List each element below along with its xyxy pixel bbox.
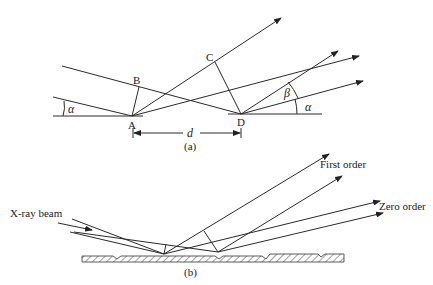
grating-surface [82,254,344,262]
incident-beam-upper-ext [74,232,218,252]
angle-arc-alpha-right [295,99,297,114]
diffracted-ray-d-alpha [241,81,363,114]
zero-order-ray-1 [164,201,380,254]
label-x-ray-beam: X-ray beam [10,207,63,219]
label-c: C [206,51,213,63]
label-alpha-left: α [68,102,75,116]
label-zero-order: Zero order [379,200,426,212]
diffracted-ray-d-beta [241,51,338,114]
label-b: B [133,74,140,86]
zero-order-ray-2 [218,213,383,252]
angle-arc-alpha-left [63,101,65,116]
figure-b: X-ray beam First order Zero order (b) [10,154,426,279]
label-d-distance: d [187,126,194,140]
figure-a: A B C D α α β d (a) [53,18,363,153]
incident-ray-upper [62,66,241,114]
label-first-order: First order [320,158,366,170]
diffracted-ray-a-steep [132,18,281,116]
diffraction-diagram: A B C D α α β d (a) X-ray beam Fir [0,0,433,285]
incident-beam-upper [72,219,164,254]
label-d: D [237,116,245,128]
caption-a: (a) [184,140,197,153]
label-a: A [128,119,136,131]
first-order-ray-1 [164,154,329,254]
label-alpha-right: α [305,100,312,114]
incident-direction-arrow [58,223,92,230]
caption-b: (b) [184,266,197,279]
diffracted-ray-a-shallow [132,56,359,116]
first-order-ray-2 [218,176,342,252]
label-beta: β [283,86,290,100]
